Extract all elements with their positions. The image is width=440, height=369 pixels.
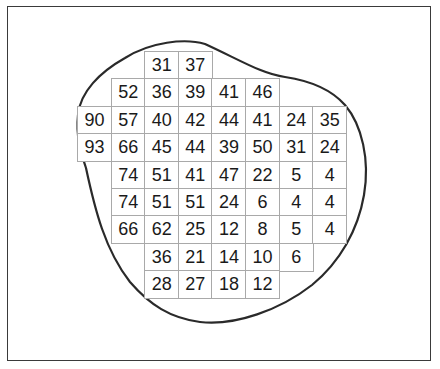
grid-cell: 31 <box>144 51 179 80</box>
grid-cell: 21 <box>178 243 213 272</box>
grid-cell: 8 <box>245 215 280 244</box>
grid-cell: 66 <box>111 215 146 244</box>
grid-cell: 14 <box>211 243 246 272</box>
grid-cell: 4 <box>312 161 347 190</box>
grid-cell: 41 <box>245 106 280 135</box>
grid-cell: 44 <box>211 106 246 135</box>
grid-cell: 36 <box>144 243 179 272</box>
grid-cell: 27 <box>178 270 213 299</box>
grid-cell: 24 <box>312 133 347 162</box>
grid-cell: 35 <box>312 106 347 135</box>
grid-cell: 41 <box>178 161 213 190</box>
grid-cell: 57 <box>111 106 146 135</box>
grid-cell: 18 <box>211 270 246 299</box>
grid-cell: 4 <box>279 188 314 217</box>
grid-cell: 40 <box>144 106 179 135</box>
grid-cell: 39 <box>178 78 213 107</box>
grid-cell: 46 <box>245 78 280 107</box>
grid-cell: 36 <box>144 78 179 107</box>
grid-cell: 90 <box>77 106 112 135</box>
grid-cell: 52 <box>111 78 146 107</box>
grid-cell: 24 <box>211 188 246 217</box>
grid-cell: 25 <box>178 215 213 244</box>
grid-cell: 22 <box>245 161 280 190</box>
grid-cell: 5 <box>279 215 314 244</box>
grid-cell: 5 <box>279 161 314 190</box>
grid-cell: 12 <box>211 215 246 244</box>
grid-cell: 93 <box>77 133 112 162</box>
grid-cell: 66 <box>111 133 146 162</box>
grid-cell: 4 <box>312 188 347 217</box>
grid-cell: 31 <box>279 133 314 162</box>
grid-cell: 12 <box>245 270 280 299</box>
grid-cell: 62 <box>144 215 179 244</box>
grid-cell: 42 <box>178 106 213 135</box>
grid-cell: 10 <box>245 243 280 272</box>
grid-cell: 51 <box>144 188 179 217</box>
grid-cell: 51 <box>144 161 179 190</box>
grid-cell: 41 <box>211 78 246 107</box>
grid-cell: 6 <box>279 243 314 272</box>
grid-cell: 37 <box>178 51 213 80</box>
grid-cell: 45 <box>144 133 179 162</box>
grid-cell: 4 <box>312 215 347 244</box>
grid-cell: 6 <box>245 188 280 217</box>
grid-cell: 44 <box>178 133 213 162</box>
grid-cell: 74 <box>111 161 146 190</box>
grid-cell: 47 <box>211 161 246 190</box>
grid-cell: 39 <box>211 133 246 162</box>
grid-cell: 51 <box>178 188 213 217</box>
grid-cell: 74 <box>111 188 146 217</box>
grid-cell: 24 <box>279 106 314 135</box>
grid-cell: 28 <box>144 270 179 299</box>
grid-cell: 50 <box>245 133 280 162</box>
